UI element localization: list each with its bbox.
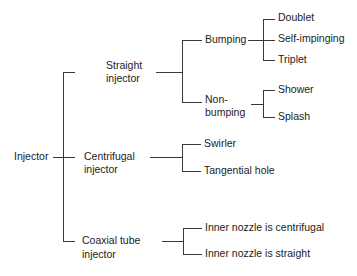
connector-coaxial <box>162 241 183 242</box>
node-shower: Shower <box>278 83 314 96</box>
node-inner-nozzle-straight: Inner nozzle is straight <box>205 247 310 260</box>
node-doublet: Doublet <box>278 11 314 24</box>
node-self-impinging: Self-impinging <box>278 32 345 45</box>
bracket-centrifugal <box>182 144 183 172</box>
node-straight-injector-l1: Straight <box>106 59 142 72</box>
bracket-coaxial <box>183 228 184 255</box>
stub-inner-straight <box>183 254 202 255</box>
stub-non-bumping <box>182 102 202 103</box>
node-splash: Splash <box>278 110 310 123</box>
connector-centrifugal <box>150 157 182 158</box>
stub-shower <box>263 90 275 91</box>
connector-bumping <box>248 40 263 41</box>
stub-swirler <box>182 144 201 145</box>
node-centrifugal-injector-l1: Centrifugal <box>84 150 135 163</box>
stub-bumping <box>182 40 202 41</box>
node-inner-nozzle-centrifugal: Inner nozzle is centrifugal <box>205 221 324 234</box>
connector-non-bumping <box>251 104 263 105</box>
node-coaxial-tube-injector-l1: Coaxial tube <box>82 234 140 247</box>
stub-coaxial <box>63 241 75 242</box>
node-coaxial-tube-injector-l2: injector <box>82 248 116 261</box>
connector-root <box>53 157 75 158</box>
node-tangential-hole: Tangential hole <box>204 164 275 177</box>
node-swirler: Swirler <box>204 137 236 150</box>
stub-triplet <box>263 60 275 61</box>
node-non-bumping-l1: Non- <box>205 93 228 106</box>
node-centrifugal-injector-l2: injector <box>84 163 118 176</box>
connector-straight <box>156 72 182 73</box>
bracket-non-bumping <box>263 90 264 118</box>
node-injector: Injector <box>14 150 48 163</box>
node-triplet: Triplet <box>278 53 307 66</box>
node-bumping: Bumping <box>205 33 246 46</box>
bracket-straight <box>182 40 183 103</box>
stub-doublet <box>263 19 275 20</box>
stub-straight <box>63 72 75 73</box>
trunk-root <box>63 72 64 242</box>
stub-self-impinging <box>263 40 275 41</box>
stub-inner-centrifugal <box>183 228 202 229</box>
stub-tangential-hole <box>182 171 201 172</box>
node-non-bumping-l2: bumping <box>205 106 245 119</box>
stub-splash <box>263 117 275 118</box>
node-straight-injector-l2: injector <box>106 72 140 85</box>
